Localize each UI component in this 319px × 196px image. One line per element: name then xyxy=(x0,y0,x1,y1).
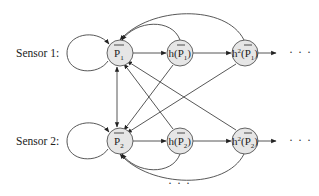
edge-h2p2-to-p1 xyxy=(127,61,236,130)
row-2-continuation-ellipsis: · · · xyxy=(289,133,312,147)
arc-hp1-to-p1 xyxy=(122,24,180,40)
edge-h2p1-to-p2 xyxy=(127,64,236,133)
node-h-p1: h(P1) xyxy=(167,40,193,66)
node-p2: P2 xyxy=(107,128,133,154)
node-h2-p2: h2(P2) xyxy=(232,128,258,154)
node-h-p2: h(P2) xyxy=(167,128,193,154)
arc-hp2-to-p2 xyxy=(122,154,180,170)
sensor-state-diagram: Sensor 1: Sensor 2: P1 h(P1) h2(P1) xyxy=(0,0,319,196)
row-1-continuation-ellipsis: · · · xyxy=(289,45,312,59)
sensor-1-label: Sensor 1: xyxy=(16,47,59,59)
more-sensors-ellipsis: · · · xyxy=(168,176,191,190)
sensor-2-label: Sensor 2: xyxy=(16,135,59,147)
self-loop-edge-1 xyxy=(67,35,109,71)
node-h2-p1: h2(P1) xyxy=(232,40,258,66)
self-loop-edge-2 xyxy=(67,123,109,159)
node-p1: P1 xyxy=(107,40,133,66)
